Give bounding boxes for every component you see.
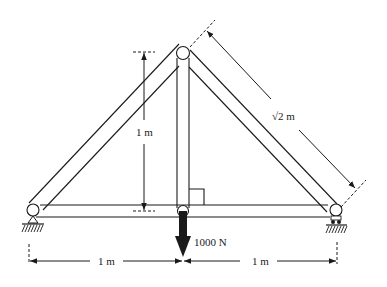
roller-support	[326, 216, 347, 233]
vertical-center-member	[177, 58, 189, 208]
left-diagonal-member	[29, 44, 179, 210]
load-arrow	[175, 211, 191, 257]
apex-joint	[177, 47, 190, 60]
truss-diagram: 1000 N 1 m √2 m 1 m 1 m	[0, 0, 387, 287]
left-span-label: 1 m	[98, 255, 115, 267]
load-label: 1000 N	[194, 236, 227, 248]
right-span-label: 1 m	[252, 255, 269, 267]
left-support-joint	[27, 204, 39, 216]
right-support-joint	[330, 204, 342, 216]
height-label: 1 m	[136, 126, 153, 138]
diagonal-label: √2 m	[272, 110, 295, 122]
right-diagonal-member	[189, 50, 337, 212]
right-angle-marker	[189, 189, 204, 205]
pin-support	[22, 216, 44, 232]
